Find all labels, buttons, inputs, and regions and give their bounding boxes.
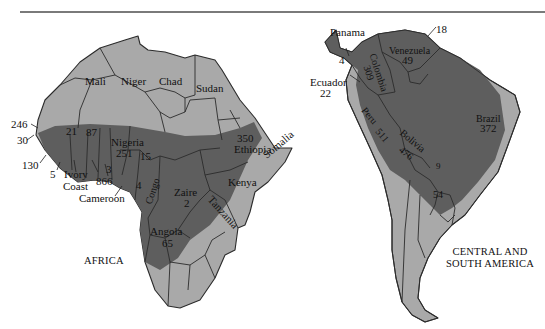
label-sudan: Sudan <box>196 83 224 94</box>
label-angola-value: 65 <box>162 238 173 249</box>
value-18: 18 <box>436 24 447 35</box>
map-canvas <box>0 0 545 329</box>
value-9: 9 <box>436 161 441 172</box>
label-panama-value: 4 <box>339 55 345 66</box>
label-panama: Panama <box>330 27 365 38</box>
south-america-title-line2: SOUTH AMERICA <box>432 258 545 269</box>
value-4: 4 <box>136 180 142 191</box>
label-mali: Mali <box>85 76 106 87</box>
value-54: 54 <box>433 189 443 200</box>
label-brazil-value: 372 <box>480 123 497 134</box>
label-ivory-coast-line2: Coast <box>63 181 88 192</box>
label-niger: Niger <box>121 76 146 87</box>
label-cameroon: Cameroon <box>79 193 125 204</box>
value-21: 21 <box>66 126 77 137</box>
label-ecuador-value: 22 <box>320 88 331 99</box>
label-chad: Chad <box>159 76 182 87</box>
value-866: 866 <box>96 176 113 187</box>
label-kenya: Kenya <box>228 177 257 188</box>
africa-title: AFRICA <box>84 255 124 266</box>
label-ivory-coast-line1: Ivory <box>64 169 88 180</box>
label-zaire-value: 2 <box>184 198 190 209</box>
value-246: 246 <box>11 119 28 130</box>
value-130: 130 <box>22 160 39 171</box>
label-venezuela-value: 49 <box>402 55 413 66</box>
value-5: 5 <box>50 169 56 180</box>
value-30: 30 <box>17 135 28 146</box>
label-nigeria-value: 251 <box>116 148 133 159</box>
label-angola: Angola <box>150 226 182 237</box>
south-america-title-line1: CENTRAL AND <box>435 246 545 257</box>
value-87: 87 <box>86 127 97 138</box>
value-15: 15 <box>140 151 151 162</box>
value-3: 3 <box>106 164 112 175</box>
